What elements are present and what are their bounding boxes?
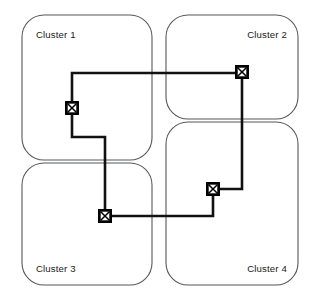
node-cluster-2[interactable] bbox=[236, 66, 249, 79]
node-cluster-3[interactable] bbox=[99, 210, 112, 223]
cluster-label-3: Cluster 3 bbox=[36, 263, 76, 274]
cluster-box-4[interactable] bbox=[166, 122, 298, 285]
nodes-layer bbox=[66, 66, 249, 223]
cluster-label-2: Cluster 2 bbox=[247, 29, 287, 40]
cluster-label-1: Cluster 1 bbox=[36, 29, 76, 40]
node-cluster-4[interactable] bbox=[207, 183, 220, 196]
link-cluster1-cluster2 bbox=[72, 73, 236, 102]
cluster-label-4: Cluster 4 bbox=[247, 263, 287, 274]
node-cluster-1[interactable] bbox=[66, 102, 79, 115]
diagram-canvas: Cluster 1 Cluster 2 Cluster 3 Cluster 4 bbox=[0, 0, 321, 300]
cluster-topology-diagram: Cluster 1 Cluster 2 Cluster 3 Cluster 4 bbox=[0, 0, 321, 300]
link-cluster2-cluster4 bbox=[219, 78, 242, 189]
labels-layer: Cluster 1 Cluster 2 Cluster 3 Cluster 4 bbox=[36, 29, 288, 274]
cluster-boxes-layer bbox=[22, 15, 298, 285]
link-cluster4-cluster3 bbox=[111, 195, 213, 216]
link-cluster3-cluster1 bbox=[72, 114, 105, 210]
